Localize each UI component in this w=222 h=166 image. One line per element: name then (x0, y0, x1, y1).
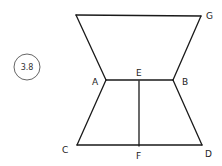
label-c: C (62, 145, 68, 155)
label-e: E (136, 68, 142, 78)
badge-text: 3.8 (21, 63, 34, 72)
figure-number-badge: 3.8 (14, 54, 40, 80)
edge-g-to-b (173, 16, 201, 80)
label-d: D (205, 149, 212, 159)
edge-a-c (77, 80, 106, 145)
geometry-diagram: 3.8 G A E B C F D (0, 0, 222, 166)
edge-b-d (173, 80, 202, 145)
label-f: F (136, 151, 141, 161)
edge-top-left-to-a (76, 15, 106, 80)
label-b: B (182, 77, 188, 87)
edge-top (76, 15, 201, 16)
label-g: G (206, 11, 213, 21)
label-a: A (92, 77, 99, 87)
